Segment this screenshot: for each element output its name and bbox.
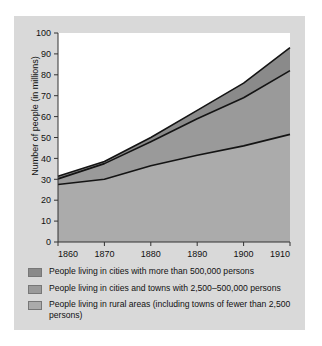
figure-panel: 0102030405060708090100186018701880189019… [14,16,305,330]
svg-text:10: 10 [41,216,51,226]
legend-item: People living in cities and towns with 2… [28,283,305,294]
legend-label: People living in rural areas (including … [49,299,305,321]
legend-item: People living in rural areas (including … [28,299,305,321]
legend-label: People living in cities with more than 5… [49,266,254,277]
legend-swatch-rural [28,301,42,310]
svg-text:0: 0 [46,237,51,247]
legend-label: People living in cities and towns with 2… [49,283,281,294]
svg-text:30: 30 [41,175,51,185]
svg-text:100: 100 [36,28,51,38]
svg-text:90: 90 [41,49,51,59]
svg-text:70: 70 [41,91,51,101]
legend-swatch-small-cities [28,285,42,294]
svg-text:1860: 1860 [58,249,78,259]
plot-area: 0102030405060708090100186018701880189019… [14,16,305,264]
area-chart: 0102030405060708090100186018701880189019… [14,16,305,264]
svg-text:20: 20 [41,195,51,205]
svg-text:1910: 1910 [270,249,290,259]
y-axis-title: Number of people (in millions) [30,46,40,186]
svg-text:40: 40 [41,154,51,164]
svg-text:50: 50 [41,133,51,143]
svg-text:1870: 1870 [94,249,114,259]
svg-text:1880: 1880 [141,249,161,259]
legend-swatch-large-cities [28,268,42,277]
svg-text:60: 60 [41,112,51,122]
svg-text:1900: 1900 [234,249,254,259]
chart-legend: People living in cities with more than 5… [28,266,305,327]
svg-text:80: 80 [41,70,51,80]
legend-item: People living in cities with more than 5… [28,266,305,277]
svg-text:1890: 1890 [187,249,207,259]
